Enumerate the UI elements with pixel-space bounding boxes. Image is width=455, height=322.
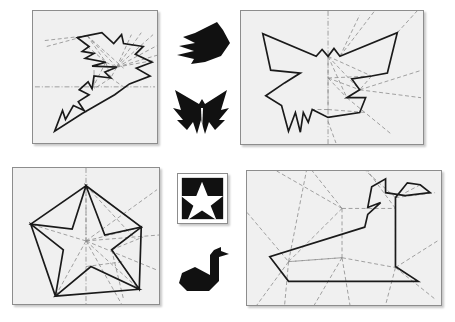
swan-crease-svg	[247, 171, 441, 305]
butterfly-outline	[263, 33, 398, 133]
swan-outline	[270, 179, 430, 281]
star-tile-svg	[178, 174, 227, 223]
silhouette-butterfly	[171, 86, 233, 136]
tile-star	[177, 173, 228, 224]
butterfly-crease-svg	[241, 11, 423, 144]
origami-figure	[0, 0, 455, 322]
panel-crease-pattern-star	[12, 167, 160, 305]
silhouette-fish	[171, 19, 231, 67]
panel-crease-pattern-butterfly	[240, 10, 424, 145]
fish-silhouette-svg	[171, 19, 231, 67]
star-point-top-right	[86, 186, 141, 235]
butterfly-silhouette-svg	[171, 86, 233, 136]
fish-outline	[55, 33, 152, 132]
swan-silhouette-shape	[179, 247, 229, 291]
swan-silhouette-svg	[177, 245, 233, 295]
star-point-top-left	[31, 186, 86, 229]
fish-silhouette-shape	[177, 22, 230, 64]
fish-crease-svg	[33, 11, 157, 143]
silhouette-swan	[177, 245, 233, 295]
star-point-right	[112, 227, 142, 289]
star-crease-svg	[13, 168, 159, 304]
panel-crease-pattern-swan	[246, 170, 442, 306]
panel-crease-pattern-fish	[32, 10, 158, 144]
swan-crease-lines	[247, 171, 439, 305]
butterfly-silhouette-shape	[173, 90, 229, 134]
star-point-left	[31, 224, 64, 296]
